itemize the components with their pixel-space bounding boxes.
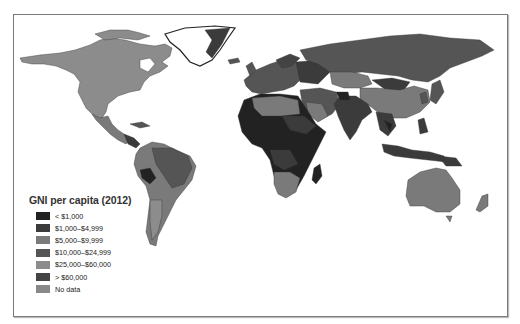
legend-label: No data	[55, 285, 80, 294]
region-southern-africa	[274, 172, 300, 198]
legend-swatch	[36, 273, 50, 281]
legend-item: $10,000–$24,999	[36, 247, 131, 259]
legend-label: $5,000–$9,999	[55, 236, 103, 245]
legend-item: < $1,000	[36, 210, 131, 222]
legend-swatch	[36, 224, 50, 232]
region-russia	[300, 34, 494, 82]
legend-title: GNI per capita (2012)	[29, 194, 131, 206]
legend-item: $5,000–$9,999	[36, 234, 131, 246]
legend-label: > $60,000	[55, 273, 87, 282]
legend-swatch	[36, 249, 50, 257]
region-mexico	[92, 114, 130, 144]
legend-swatch	[36, 236, 50, 244]
legend-label: $25,000–$60,000	[55, 260, 111, 269]
region-australia	[406, 168, 460, 212]
legend-item: > $60,000	[36, 271, 131, 283]
legend-label: $1,000–$4,999	[55, 224, 103, 233]
legend-item: No data	[36, 283, 131, 295]
legend-swatch	[36, 285, 50, 293]
legend-swatch	[36, 261, 50, 269]
legend-item: $25,000–$60,000	[36, 259, 131, 271]
legend-label: < $1,000	[55, 212, 83, 221]
region-indonesia	[382, 144, 446, 162]
region-north-america	[20, 38, 172, 120]
map-legend: GNI per capita (2012) < $1,000 $1,000–$4…	[29, 194, 131, 295]
legend-swatch	[36, 212, 50, 220]
legend-item: $1,000–$4,999	[36, 222, 131, 234]
legend-label: $10,000–$24,999	[55, 248, 111, 257]
